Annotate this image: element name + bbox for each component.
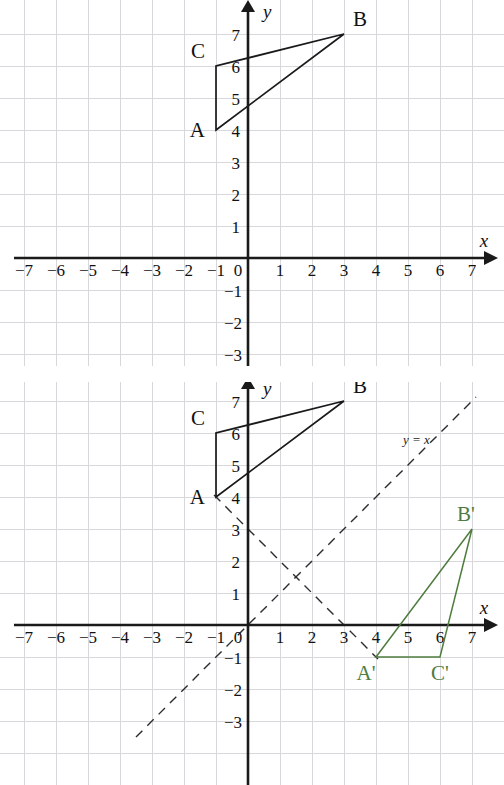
y-tick: 3: [232, 521, 241, 540]
vertex-label-b-top: B: [353, 7, 367, 31]
x-tick: 1: [276, 628, 285, 647]
origin-tick: 0: [234, 261, 243, 280]
y-tick: 5: [232, 90, 241, 109]
y-tick: −1: [224, 282, 242, 301]
y-tick: −2: [224, 314, 242, 333]
x-tick: 7: [468, 628, 477, 647]
vertex-label-c-prime: C': [431, 661, 449, 685]
x-tick: −1: [207, 628, 225, 647]
x-tick: −7: [15, 261, 34, 280]
y-tick: −3: [224, 346, 242, 365]
y-tick: 7: [232, 26, 241, 45]
y-tick: −3: [224, 713, 242, 732]
y-tick: 7: [232, 393, 241, 412]
x-tick: −7: [15, 628, 34, 647]
y-tick-labels-bottom: 7 6 5 4 3 2 1 −1 −2 −3: [224, 393, 242, 732]
x-axis-label-bottom: x: [479, 597, 489, 618]
y-tick: 5: [232, 457, 241, 476]
coordinate-plane-bottom: y = x x y −7 −6 −5 −4 −3 −2 −1 0 1 2 3: [0, 382, 504, 785]
y-tick: 4: [232, 122, 241, 141]
y-tick: 1: [232, 218, 241, 237]
y-tick: −2: [224, 681, 242, 700]
x-tick: 5: [404, 628, 413, 647]
vertex-label-b-prime: B': [457, 502, 475, 526]
x-tick: −2: [175, 628, 193, 647]
x-tick: −6: [47, 628, 65, 647]
grid-horizontal-bottom: [0, 401, 504, 753]
y-tick: 1: [232, 585, 241, 604]
coordinate-plane-top: x y −7 −6 −5 −4 −3 −2 −1 0 1 2 3 4 5 6 7…: [0, 0, 504, 366]
x-tick-labels-top: −7 −6 −5 −4 −3 −2 −1 0 1 2 3 4 5 6 7: [15, 261, 477, 280]
y-axis-bottom: [241, 382, 255, 785]
grid-horizontal-top: [0, 34, 504, 354]
reflection-line-y-equals-x: [136, 397, 476, 737]
y-tick: 2: [232, 186, 241, 205]
x-axis-label-top: x: [479, 230, 489, 251]
x-tick: −4: [111, 628, 130, 647]
x-tick: 2: [308, 628, 317, 647]
vertex-label-b-bottom: B: [353, 382, 367, 398]
x-tick: −5: [79, 628, 97, 647]
x-tick: 3: [340, 261, 349, 280]
y-axis-top: [241, 0, 255, 366]
y-tick: −1: [224, 649, 242, 668]
x-tick: 6: [436, 261, 445, 280]
x-tick: 5: [404, 261, 413, 280]
y-tick: 3: [232, 154, 241, 173]
x-tick: 4: [372, 261, 381, 280]
grid-vertical-top: [24, 0, 504, 366]
y-tick-labels-top: 7 6 5 4 3 2 1 −1 −2 −3: [224, 26, 242, 365]
x-tick: 3: [340, 628, 349, 647]
vertex-label-c-top: C: [191, 39, 205, 63]
x-tick: 2: [308, 261, 317, 280]
origin-tick: 0: [234, 628, 243, 647]
x-tick: −3: [143, 261, 161, 280]
graph-panel-top: x y −7 −6 −5 −4 −3 −2 −1 0 1 2 3 4 5 6 7…: [0, 0, 504, 366]
x-tick: −2: [175, 261, 193, 280]
x-tick: 7: [468, 261, 477, 280]
x-tick: −5: [79, 261, 97, 280]
vertex-label-c-bottom: C: [191, 406, 205, 430]
reflection-line-label: y = x: [401, 432, 430, 447]
vertex-label-a-prime: A': [357, 661, 376, 685]
graph-panel-bottom: y = x x y −7 −6 −5 −4 −3 −2 −1 0 1 2 3: [0, 382, 504, 785]
x-tick: −4: [111, 261, 130, 280]
x-tick-labels-bottom: −7 −6 −5 −4 −3 −2 −1 0 1 2 3 4 5 6 7: [15, 628, 477, 647]
x-tick: −1: [207, 261, 225, 280]
vertex-label-a-top: A: [190, 118, 206, 142]
y-axis-label-bottom: y: [261, 382, 272, 399]
x-tick: 4: [372, 628, 381, 647]
x-tick: 1: [276, 261, 285, 280]
y-tick: 4: [232, 489, 241, 508]
vertex-label-a-bottom: A: [190, 485, 206, 509]
y-tick: 2: [232, 553, 241, 572]
x-tick: −3: [143, 628, 161, 647]
y-axis-label-top: y: [261, 1, 272, 22]
x-tick: −6: [47, 261, 65, 280]
